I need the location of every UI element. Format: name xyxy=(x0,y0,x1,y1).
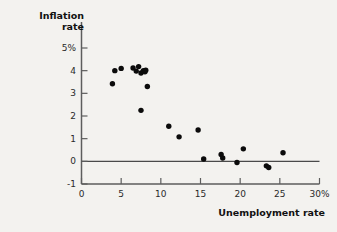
data-point xyxy=(136,64,141,69)
data-point xyxy=(195,127,200,132)
x-tick-label: 0 xyxy=(79,190,85,199)
data-point xyxy=(110,81,115,86)
data-point xyxy=(138,108,143,113)
data-point xyxy=(201,156,206,161)
data-point xyxy=(280,150,285,155)
data-point xyxy=(166,124,171,129)
y-axis-title: Inflation rate xyxy=(18,10,84,32)
axis-ticks xyxy=(82,48,320,184)
y-axis-title-line2: rate xyxy=(18,21,84,32)
data-points xyxy=(110,64,286,170)
data-point xyxy=(176,134,181,139)
y-tick-label: 0 xyxy=(40,157,76,166)
y-axis-title-line1: Inflation xyxy=(18,10,84,21)
x-tick-label: 30% xyxy=(309,190,329,199)
data-point xyxy=(112,68,117,73)
data-point xyxy=(241,146,246,151)
y-tick-label: 5% xyxy=(40,44,76,53)
data-point xyxy=(266,165,271,170)
y-tick-label: 3 xyxy=(40,89,76,98)
axes-group xyxy=(82,22,320,184)
x-tick-label: 5 xyxy=(118,190,124,199)
chart-figure: -1012345%051015202530% Inflation rate Un… xyxy=(0,0,337,232)
x-tick-label: 15 xyxy=(195,190,206,199)
x-axis-title: Unemployment rate xyxy=(150,207,325,218)
y-tick-label: 4 xyxy=(40,66,76,75)
data-point xyxy=(234,160,239,165)
y-tick-label: -1 xyxy=(40,180,76,189)
y-tick-label: 2 xyxy=(40,112,76,121)
x-tick-label: 20 xyxy=(234,190,245,199)
x-tick-label: 25 xyxy=(274,190,285,199)
data-point xyxy=(220,155,225,160)
data-point xyxy=(118,66,123,71)
data-point xyxy=(145,84,150,89)
y-tick-label: 1 xyxy=(40,134,76,143)
data-point xyxy=(143,68,148,73)
x-tick-label: 10 xyxy=(155,190,166,199)
